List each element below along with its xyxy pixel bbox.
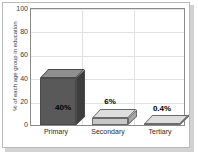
y-axis-title: % of each age group in education <box>12 1 18 131</box>
x-label-secondary: Secondary <box>82 128 134 135</box>
x-axis-labels: Primary Secondary Tertiary <box>30 128 185 142</box>
gridline-100 <box>31 9 184 10</box>
bar-primary[interactable] <box>40 78 76 125</box>
category-divider-2 <box>134 9 135 125</box>
bar-primary-front <box>40 78 76 125</box>
bar-value-tertiary: 0.4% <box>141 104 183 113</box>
x-label-primary: Primary <box>30 128 82 135</box>
y-tick-label-0: 0 <box>2 121 28 128</box>
y-tick-label-40: 40 <box>2 75 28 82</box>
y-tick-label-100: 100 <box>2 5 28 12</box>
y-tick-label-80: 80 <box>2 28 28 35</box>
bar-value-secondary: 6% <box>92 97 128 106</box>
chart-figure: % of each age group in education 100 80 … <box>0 0 198 157</box>
x-label-tertiary: Tertiary <box>134 128 186 135</box>
bar-secondary[interactable] <box>92 118 128 125</box>
bar-primary-side <box>76 70 85 125</box>
y-tick-label-60: 60 <box>2 51 28 58</box>
bar-tertiary[interactable] <box>144 123 180 125</box>
gridline-60 <box>31 56 184 57</box>
plot-area: 40% 6% 0.4% <box>30 8 185 126</box>
y-axis-ticks: % of each age group in education 100 80 … <box>0 8 28 126</box>
gridline-80 <box>31 32 184 33</box>
y-tick-label-20: 20 <box>2 98 28 105</box>
bar-value-primary: 40% <box>45 103 81 112</box>
bar-secondary-front <box>92 118 128 125</box>
